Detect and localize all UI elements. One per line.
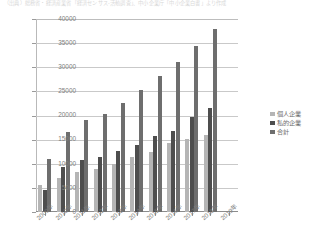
chart-caption: （出典）総務省・経済産業省「経済センサス‐活動調査」、中小企業庁「中小企業白書」… xyxy=(4,0,314,7)
y-tick-label: 40000 xyxy=(42,16,76,22)
bar xyxy=(130,157,134,212)
bar-group xyxy=(204,19,218,212)
bar xyxy=(213,29,217,212)
bar xyxy=(121,103,125,212)
bar-group xyxy=(94,19,108,212)
y-tick-label: 30000 xyxy=(42,64,76,70)
y-tick-mark xyxy=(32,140,36,141)
bar xyxy=(167,143,171,212)
bar xyxy=(139,90,143,212)
y-tick-label: 10000 xyxy=(42,161,76,167)
bar xyxy=(149,152,153,212)
bar-group xyxy=(149,19,163,212)
y-tick-mark xyxy=(32,164,36,165)
bar xyxy=(135,145,139,212)
legend-item[interactable]: 個人企業 xyxy=(270,110,301,118)
bar-group xyxy=(167,19,181,212)
legend-label: 個人企業 xyxy=(277,110,301,117)
bar xyxy=(208,108,212,212)
bar xyxy=(176,62,180,212)
bar xyxy=(158,76,162,212)
legend-swatch-icon xyxy=(270,130,275,135)
bar xyxy=(190,117,194,212)
bar xyxy=(66,132,70,212)
y-tick-label: 5000 xyxy=(42,185,76,191)
bar-group xyxy=(112,19,126,212)
legend-item[interactable]: 私的企業 xyxy=(270,119,301,127)
bar-chart: （出典）総務省・経済産業省「経済センサス‐活動調査」、中小企業庁「中小企業白書」… xyxy=(0,0,318,249)
y-tick-label: 35000 xyxy=(42,40,76,46)
legend-label: 私的企業 xyxy=(277,119,301,126)
y-tick-mark xyxy=(32,43,36,44)
chart-legend: 個人企業私的企業合計 xyxy=(270,110,301,137)
y-tick-label: 25000 xyxy=(42,88,76,94)
y-tick-label: 20000 xyxy=(42,112,76,118)
legend-swatch-icon xyxy=(270,112,275,117)
bar xyxy=(204,135,208,212)
legend-label: 合計 xyxy=(277,128,289,135)
bar-group xyxy=(75,19,89,212)
y-tick-label: 15000 xyxy=(42,136,76,142)
y-tick-mark xyxy=(32,188,36,189)
bar xyxy=(153,136,157,212)
bar xyxy=(94,169,98,212)
y-tick-mark xyxy=(32,91,36,92)
y-tick-mark xyxy=(32,212,36,213)
bar xyxy=(112,164,116,212)
y-tick-mark xyxy=(32,116,36,117)
bar xyxy=(171,131,175,212)
bar xyxy=(75,172,79,212)
y-tick-mark xyxy=(32,67,36,68)
bar xyxy=(116,151,120,212)
bar xyxy=(194,46,198,212)
bar xyxy=(185,139,189,212)
bar xyxy=(98,157,102,212)
bar-group xyxy=(222,19,236,212)
bar xyxy=(84,120,88,212)
legend-item[interactable]: 合計 xyxy=(270,128,301,136)
legend-swatch-icon xyxy=(270,121,275,126)
y-tick-mark xyxy=(32,19,36,20)
bar-group xyxy=(130,19,144,212)
bar xyxy=(57,178,61,212)
bar-group xyxy=(185,19,199,212)
bar xyxy=(103,114,107,212)
